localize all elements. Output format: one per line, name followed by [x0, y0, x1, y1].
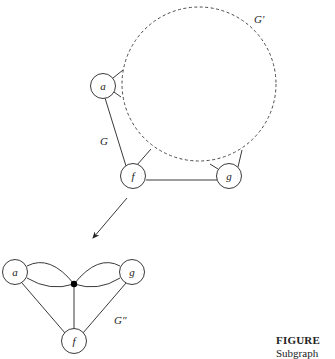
edge-a-to-gprime-upper — [113, 70, 123, 78]
edge-g-center-lower — [74, 278, 120, 287]
figure-caption-text: Subgraph — [276, 347, 318, 359]
transform-arrow-icon — [93, 198, 127, 238]
bottom-graph: a g f G″ — [3, 260, 145, 354]
edge-a-center-upper — [27, 263, 74, 284]
label-subgraph-g-prime: G′ — [254, 13, 265, 25]
node-center-contracted — [71, 281, 77, 287]
subgraph-g-prime-boundary — [122, 7, 276, 161]
node-label-a-bottom: a — [12, 266, 18, 278]
edge-g-to-gprime-left — [210, 164, 218, 169]
node-label-a-top: a — [100, 80, 106, 92]
label-graph-g: G — [100, 135, 108, 147]
edge-g-to-gprime-right — [238, 150, 242, 167]
edge-a-center-lower — [27, 278, 74, 287]
edge-g-center-upper — [74, 263, 120, 284]
node-label-g-top: g — [226, 170, 232, 182]
edge-f-to-gprime — [137, 149, 151, 165]
top-graph: a f g G G′ — [91, 7, 277, 189]
edge-a-f-bottom — [22, 283, 65, 333]
figure-caption-title: FIGURE — [276, 334, 320, 346]
edge-a-f — [105, 98, 126, 166]
label-graph-g-double-prime: G″ — [114, 314, 127, 326]
node-label-g-bottom: g — [129, 266, 135, 278]
edge-a-to-gprime-lower — [114, 92, 121, 97]
